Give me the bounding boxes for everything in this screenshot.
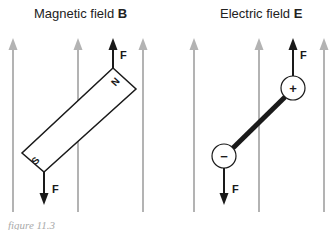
negative-force-arrow: F bbox=[220, 168, 240, 205]
figure-caption: figure 11.3 bbox=[8, 219, 55, 230]
south-force-arrow: F bbox=[40, 172, 60, 205]
field-line-arrow bbox=[320, 38, 329, 212]
south-force-label: F bbox=[52, 183, 59, 195]
field-line-arrow bbox=[190, 38, 199, 212]
field-line-arrow bbox=[139, 38, 148, 212]
negative-force-label: F bbox=[232, 183, 239, 195]
positive-force-label: F bbox=[300, 49, 307, 61]
negative-charge: − bbox=[212, 144, 236, 168]
field-diagram: N S F F + − bbox=[0, 0, 335, 230]
negative-charge-symbol: − bbox=[220, 149, 228, 164]
north-force-label: F bbox=[120, 49, 127, 61]
field-line-arrow bbox=[9, 38, 18, 212]
positive-force-arrow: F bbox=[289, 38, 308, 76]
north-force-arrow: F bbox=[109, 38, 128, 68]
positive-charge: + bbox=[281, 76, 305, 100]
positive-charge-symbol: + bbox=[289, 81, 297, 96]
